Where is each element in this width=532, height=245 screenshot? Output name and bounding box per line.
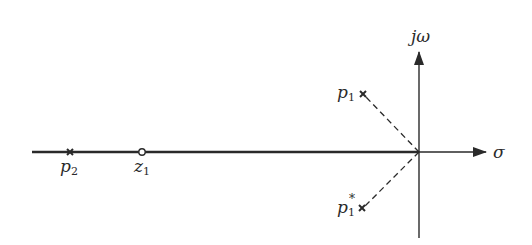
- pole-p1-conj-cross-icon: [359, 205, 365, 211]
- zero-z1-circle-icon: [139, 149, 145, 155]
- zero-z1-label: z1: [133, 156, 150, 178]
- pole-p1-cross-icon: [360, 91, 366, 97]
- imag-axis-label: jω: [407, 26, 430, 46]
- dashed-line-p1: [365, 96, 419, 152]
- pole-p2-label: p2: [60, 156, 78, 178]
- real-axis-label: σ: [493, 142, 505, 162]
- dashed-line-p1-conj: [365, 152, 419, 206]
- pole-p1-label: p1: [337, 82, 355, 104]
- pole-p1-conj-label: p1*: [337, 192, 355, 219]
- s-plane-diagram: jω σ p1 p1* p2 z1: [0, 0, 532, 245]
